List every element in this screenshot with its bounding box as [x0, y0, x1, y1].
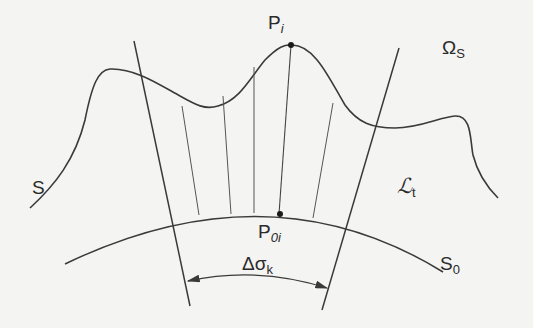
left-bounding-line [134, 41, 190, 306]
label-l-sub: t [412, 185, 416, 200]
point-pi [288, 42, 294, 48]
delta-sigma-arc [188, 275, 327, 288]
label-p-i: Pi [268, 13, 284, 32]
label-s-0: S0 [440, 254, 460, 273]
label-s0-main: S [440, 253, 453, 274]
right-bounding-line [322, 48, 399, 310]
label-delta-sub: k [266, 262, 273, 277]
label-p0i-sub: 0i [271, 230, 281, 245]
label-p-i-sub: i [281, 21, 284, 36]
label-s0-sub: 0 [453, 262, 460, 277]
projection-line-pi [279, 45, 291, 214]
label-delta-sigma: Δσk [242, 254, 273, 273]
label-omega-sub: S [456, 46, 465, 61]
diagram-canvas: Pi ΩS S ℒt P0i S0 Δσk [0, 0, 533, 328]
label-omega-s: ΩS [442, 38, 465, 57]
label-l-main: ℒ [397, 174, 412, 198]
label-s: S [32, 178, 45, 197]
label-l-t: ℒt [397, 176, 416, 197]
label-delta-main: Δσ [242, 253, 266, 274]
projection-line-2 [223, 96, 231, 214]
projection-line-5 [313, 103, 333, 218]
label-p-0i: P0i [258, 222, 281, 241]
point-p0i [277, 211, 283, 217]
label-omega-main: Ω [442, 37, 456, 58]
label-p0i-main: P [258, 221, 271, 242]
label-p-i-main: P [268, 12, 281, 33]
surface-s-curve [30, 45, 498, 208]
projection-line-1 [182, 106, 199, 215]
label-s-main: S [32, 177, 45, 198]
